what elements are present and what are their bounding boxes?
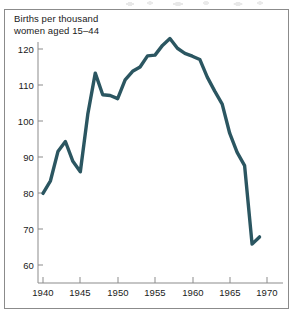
x-tick-label: 1950 xyxy=(101,287,135,298)
x-tick-label: 1945 xyxy=(63,287,97,298)
x-tick-label: 1940 xyxy=(26,287,60,298)
x-tick-label: 1970 xyxy=(250,287,284,298)
y-tick-label: 90 xyxy=(10,152,34,163)
y-axis-ticks xyxy=(38,49,43,265)
chart-plot xyxy=(0,0,294,318)
y-tick-label: 70 xyxy=(10,224,34,235)
figure-container: Births per thousand women aged 15–44 xyxy=(0,0,294,318)
x-tick-label: 1960 xyxy=(176,287,210,298)
x-axis-ticks xyxy=(43,277,267,283)
y-tick-label: 60 xyxy=(10,260,34,271)
y-tick-label: 100 xyxy=(10,116,34,127)
y-tick-label: 120 xyxy=(10,44,34,55)
x-tick-label: 1965 xyxy=(213,287,247,298)
x-tick-label: 1955 xyxy=(138,287,172,298)
y-tick-label: 80 xyxy=(10,188,34,199)
birth-rate-line xyxy=(43,39,260,245)
y-tick-label: 110 xyxy=(10,80,34,91)
